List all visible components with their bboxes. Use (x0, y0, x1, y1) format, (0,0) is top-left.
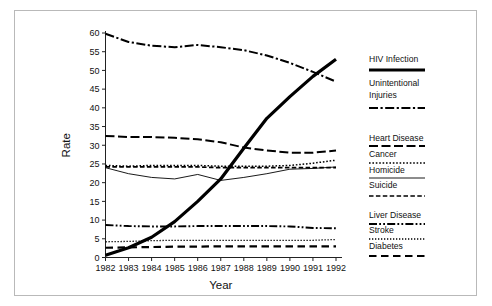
x-tick-label: 1984 (142, 263, 162, 273)
x-tick-label: 1982 (95, 263, 115, 273)
series-line-liver-disease (106, 225, 337, 228)
x-tick-label: 1985 (165, 263, 185, 273)
y-tick-label: 15 (89, 197, 99, 207)
y-tick-label: 60 (89, 28, 99, 38)
legend-label-homicide: Homicide (369, 165, 405, 175)
y-tick-label: 5 (94, 234, 99, 244)
legend-label-hiv-infection: HIV Infection (369, 54, 418, 64)
legend-label-unintentional: Unintentional (369, 78, 419, 88)
legend-label-unintentional-line2: Injuries (369, 90, 397, 100)
x-tick-label: 1990 (280, 263, 300, 273)
x-tick-label: 1991 (303, 263, 323, 273)
y-tick-label: 10 (89, 215, 99, 225)
series-line-unintentional-injuries (106, 34, 337, 82)
x-tick-label: 1987 (211, 263, 231, 273)
axis-layer: 0510152025303540455055601982198319841985… (89, 28, 346, 273)
y-tick-label: 20 (89, 178, 99, 188)
series-line-suicide (106, 167, 337, 168)
y-tick-label: 50 (89, 66, 99, 76)
y-axis-title: Rate (60, 133, 72, 157)
series-layer (106, 34, 337, 256)
legend-label-diabetes: Diabetes (369, 241, 403, 251)
y-tick-label: 0 (94, 253, 99, 263)
y-tick-label: 40 (89, 103, 99, 113)
x-tick-label: 1992 (326, 263, 346, 273)
legend-label-suicide: Suicide (369, 180, 397, 190)
x-tick-label: 1983 (119, 263, 139, 273)
x-tick-label: 1989 (257, 263, 277, 273)
line-chart-plot: 0510152025303540455055601982198319841985… (0, 0, 492, 306)
chart-figure: 0510152025303540455055601982198319841985… (0, 0, 492, 306)
series-line-heart-disease (106, 136, 337, 153)
legend-label-stroke: Stroke (369, 225, 394, 235)
legend-layer: HIV InfectionUnintentionalInjuriesHeart … (369, 54, 425, 256)
series-line-cancer (106, 160, 337, 166)
x-tick-label: 1988 (234, 263, 254, 273)
x-tick-label: 1986 (188, 263, 208, 273)
x-axis-title: Year (209, 279, 232, 291)
legend-label-heart-disease: Heart Disease (369, 133, 424, 143)
y-tick-label: 45 (89, 84, 99, 94)
legend-label-liver-disease: Liver Disease (369, 210, 421, 220)
y-tick-label: 30 (89, 141, 99, 151)
y-tick-label: 35 (89, 122, 99, 132)
y-tick-label: 55 (89, 47, 99, 57)
legend-label-cancer: Cancer (369, 149, 397, 159)
y-tick-label: 25 (89, 159, 99, 169)
series-line-diabetes (106, 246, 337, 247)
